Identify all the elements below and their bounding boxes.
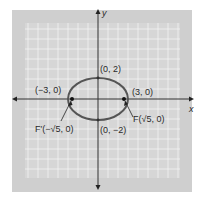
left-focus-point: [70, 97, 74, 101]
ellipse-diagram: y x (0, 2) (0, −2) (−3, 0) (3, 0) F′(−√5…: [0, 0, 205, 197]
bottom-vertex-point: [97, 119, 100, 122]
bottom-vertex-label: (0, −2): [100, 125, 126, 135]
top-vertex-point: [97, 77, 100, 80]
right-focus-label: F(√5, 0): [133, 114, 164, 124]
right-vertex-label: (3, 0): [132, 87, 153, 97]
graph-canvas: [0, 0, 205, 197]
y-axis-label: y: [102, 8, 107, 18]
left-vertex-label: (−3, 0): [35, 85, 61, 95]
left-focus-label: F′(−√5, 0): [35, 124, 73, 134]
right-focus-point: [122, 97, 126, 101]
top-vertex-label: (0, 2): [100, 64, 121, 74]
x-axis-label: x: [189, 104, 194, 114]
